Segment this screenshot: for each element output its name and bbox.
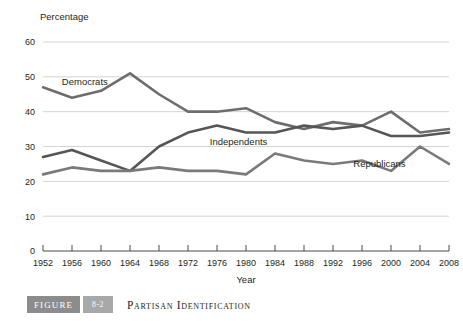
x-tick-label: 1972 — [178, 258, 198, 268]
x-tick-label: 1960 — [91, 258, 111, 268]
x-tick-label: 1976 — [207, 258, 227, 268]
x-axis-label: Year — [236, 274, 255, 285]
y-tick-label: 50 — [25, 72, 35, 82]
y-tick-label: 10 — [25, 212, 35, 222]
y-tick-label: 40 — [25, 107, 35, 117]
x-tick-label: 2004 — [410, 258, 430, 268]
y-tick-label: 0 — [30, 246, 35, 256]
x-tick-label: 1956 — [62, 258, 82, 268]
x-tick-label: 1988 — [294, 258, 314, 268]
figure-container: Percentage010203040506019521956196019641… — [0, 0, 463, 321]
x-tick-label: 2000 — [381, 258, 401, 268]
series-label-republicans: Republicans — [353, 158, 406, 169]
x-tick-label: 2008 — [439, 258, 459, 268]
y-tick-label: 30 — [25, 142, 35, 152]
caption-figure-number: 8-2 — [83, 296, 113, 313]
x-tick-label: 1952 — [33, 258, 53, 268]
x-tick-label: 1980 — [236, 258, 256, 268]
chart-plot-area: Percentage010203040506019521956196019641… — [0, 0, 463, 285]
series-label-democrats: Democrats — [62, 76, 108, 87]
x-tick-label: 1984 — [265, 258, 285, 268]
y-tick-label: 20 — [25, 177, 35, 187]
x-tick-label: 1968 — [149, 258, 169, 268]
series-label-independents: Independents — [210, 136, 268, 147]
x-tick-label: 1964 — [120, 258, 140, 268]
y-axis-label: Percentage — [40, 11, 89, 22]
partisan-identification-line-chart: Percentage010203040506019521956196019641… — [0, 0, 463, 285]
x-tick-label: 1992 — [323, 258, 343, 268]
caption-figure-title: Partisan Identification — [113, 296, 251, 313]
x-tick-label: 1996 — [352, 258, 372, 268]
figure-caption: FIGURE 8-2 Partisan Identification — [27, 296, 251, 313]
caption-figure-label: FIGURE — [27, 296, 80, 313]
y-tick-label: 60 — [25, 37, 35, 47]
